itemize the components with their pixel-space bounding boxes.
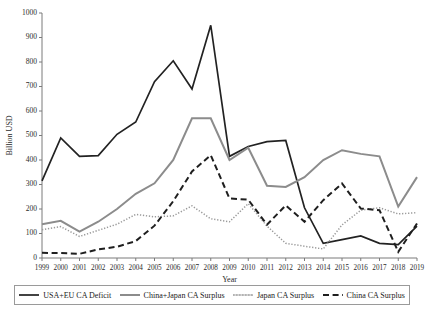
x-axis: 1999200020012002200320042005200620072008… — [35, 258, 425, 272]
line-chart-plot: 01002003004005006007008009001000 1999200… — [0, 0, 425, 315]
x-axis-tick-label: 2001 — [72, 264, 87, 272]
y-axis-tick-label: 700 — [26, 81, 38, 90]
x-axis-tick-label: 2005 — [147, 264, 162, 272]
y-axis-tick-label: 0 — [33, 253, 37, 262]
legend-item-label: China CA Surplus — [347, 291, 405, 300]
chart-legend: USA+EU CA DeficitChina+Japan CA SurplusJ… — [14, 285, 410, 305]
x-axis-tick-label: 2006 — [166, 264, 181, 272]
y-axis-tick-label: 100 — [26, 228, 38, 237]
series-line-china-japan-ca-surplus — [42, 118, 417, 231]
data-series-group — [42, 25, 417, 254]
legend-item[interactable]: Japan CA Surplus — [231, 291, 316, 300]
legend-item-label: Japan CA Surplus — [257, 291, 314, 300]
x-axis-tick-label: 2008 — [204, 264, 219, 272]
x-axis-tick-label: 2019 — [410, 264, 425, 272]
x-axis-tick-label: 2013 — [297, 264, 312, 272]
dotted-gray-line-swatch — [233, 291, 253, 299]
y-axis-tick-label: 1000 — [22, 8, 37, 17]
x-axis-tick-label: 2012 — [279, 264, 294, 272]
x-axis-tick-label: 2007 — [185, 264, 200, 272]
x-axis-tick-label: 2000 — [54, 264, 69, 272]
x-axis-tick-label: 2015 — [335, 264, 350, 272]
y-axis-tick-label: 300 — [26, 179, 38, 188]
x-axis-tick-label: 2016 — [354, 264, 369, 272]
dashed-black-line-swatch — [323, 291, 343, 299]
x-axis-tick-label: 2002 — [91, 264, 106, 272]
x-axis-tick-label: 2004 — [129, 264, 144, 272]
legend-item-label: USA+EU CA Deficit — [43, 291, 111, 300]
series-line-usa-eu-ca-deficit — [42, 25, 417, 244]
solid-gray-line-swatch — [120, 291, 140, 299]
x-axis-tick-label: 2018 — [391, 264, 406, 272]
x-axis-tick-label: 2017 — [372, 264, 387, 272]
y-axis: 01002003004005006007008009001000 — [22, 8, 42, 262]
y-axis-tick-label: 500 — [26, 130, 38, 139]
x-axis-tick-label: 2009 — [222, 264, 237, 272]
y-axis-title: Billion USD — [5, 115, 14, 155]
chart-figure: 01002003004005006007008009001000 1999200… — [0, 0, 425, 315]
y-axis-tick-label: 200 — [26, 204, 38, 213]
series-line-china-ca-surplus — [42, 155, 417, 254]
x-axis-tick-label: 1999 — [35, 264, 50, 272]
y-axis-tick-label: 600 — [26, 106, 38, 115]
legend-item[interactable]: USA+EU CA Deficit — [17, 291, 113, 300]
series-line-japan-ca-surplus — [42, 204, 417, 249]
x-axis-title: Year — [222, 275, 237, 284]
x-axis-tick-label: 2011 — [260, 264, 275, 272]
legend-item[interactable]: China CA Surplus — [321, 291, 407, 300]
legend-item-label: China+Japan CA Surplus — [144, 291, 225, 300]
solid-black-line-swatch — [19, 291, 39, 299]
x-axis-tick-label: 2003 — [110, 264, 125, 272]
y-axis-tick-label: 400 — [26, 155, 38, 164]
y-axis-tick-label: 900 — [26, 32, 38, 41]
y-axis-tick-label: 800 — [26, 57, 38, 66]
x-axis-tick-label: 2010 — [241, 264, 256, 272]
x-axis-tick-label: 2014 — [316, 264, 331, 272]
legend-item[interactable]: China+Japan CA Surplus — [118, 291, 227, 300]
